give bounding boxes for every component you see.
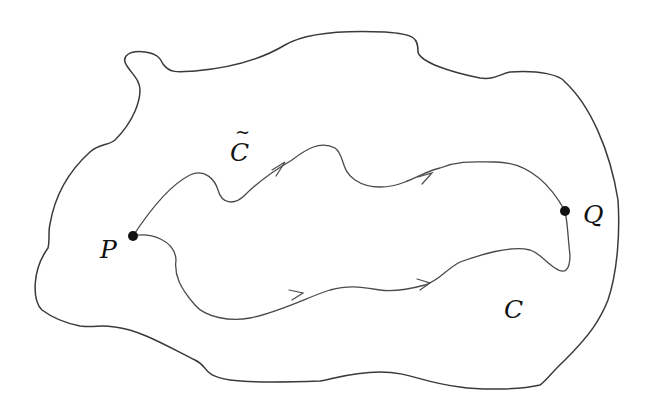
arrow-icon-upper-2 bbox=[418, 173, 432, 184]
label-c-tilde-accent: ~ bbox=[235, 123, 250, 141]
diagram-canvas bbox=[0, 0, 648, 403]
point-q-marker bbox=[560, 206, 570, 216]
arrow-icon-lower-1 bbox=[289, 290, 303, 300]
label-c: C bbox=[504, 297, 523, 322]
path-c-tilde bbox=[133, 145, 565, 236]
label-q: Q bbox=[583, 202, 604, 227]
label-c-tilde: C bbox=[230, 140, 249, 165]
point-p-marker bbox=[128, 231, 138, 241]
arrow-icon-lower-2 bbox=[417, 279, 430, 290]
region-boundary bbox=[35, 31, 619, 389]
label-p: P bbox=[100, 237, 117, 262]
